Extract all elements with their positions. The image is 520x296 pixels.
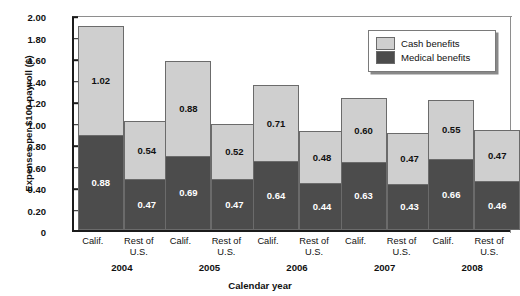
- x-group-label: 2004: [76, 262, 168, 273]
- bar-segment-medical: 0.46: [475, 181, 519, 229]
- bar-segment-medical: 0.44: [300, 183, 344, 229]
- y-tick-label: 0.60: [0, 162, 53, 173]
- y-tick-label: 1.80: [0, 33, 53, 44]
- stacked-bar: 0.550.66: [428, 100, 474, 230]
- y-tick-mark: [72, 124, 78, 126]
- bar-value-label: 0.71: [267, 119, 286, 129]
- bar-value-label: 0.47: [138, 200, 157, 210]
- bar-segment-medical: 0.43: [388, 184, 432, 229]
- legend-item-medical: Medical benefits: [376, 51, 488, 64]
- y-tick-label: 0: [0, 227, 53, 238]
- bar-segment-cash: 0.52: [212, 125, 256, 180]
- y-tick-label: 0.40: [0, 184, 53, 195]
- x-axis-title: Calendar year: [0, 280, 520, 291]
- bar-value-label: 0.64: [267, 191, 286, 201]
- bar-segment-cash: 1.02: [79, 27, 123, 136]
- y-tick-label: 1.20: [0, 98, 53, 109]
- x-sub-label: Calif.: [333, 236, 379, 247]
- bar-segment-medical: 0.69: [166, 156, 210, 229]
- bar-segment-cash: 0.55: [429, 101, 473, 159]
- stacked-bar: 0.480.44: [299, 131, 345, 230]
- bar-value-label: 0.55: [442, 125, 461, 135]
- stacked-bar: 0.540.47: [124, 121, 170, 230]
- bar-segment-medical: 0.88: [79, 135, 123, 229]
- bar-segment-cash: 0.71: [254, 86, 298, 161]
- y-tick-label: 1.00: [0, 119, 53, 130]
- bar-value-label: 1.02: [92, 76, 111, 86]
- y-tick-mark: [72, 145, 78, 147]
- y-tick-label: 1.60: [0, 55, 53, 66]
- y-tick-mark: [72, 102, 78, 104]
- bar-value-label: 0.63: [354, 191, 373, 201]
- x-group-label: 2007: [339, 262, 431, 273]
- x-group-label: 2005: [163, 262, 255, 273]
- x-sub-label: Rest of U.S.: [291, 236, 337, 257]
- legend-label-cash: Cash benefits: [401, 38, 460, 49]
- x-sub-label: Rest of U.S.: [379, 236, 425, 257]
- bar-value-label: 0.66: [442, 190, 461, 200]
- x-sub-label: Calif.: [70, 236, 116, 247]
- y-tick-mark: [72, 81, 78, 83]
- bar-segment-medical: 0.63: [342, 162, 386, 229]
- bar-segment-cash: 0.47: [388, 134, 432, 183]
- y-tick-label: 1.40: [0, 76, 53, 87]
- bar-segment-cash: 0.60: [342, 99, 386, 163]
- bar-segment-medical: 0.64: [254, 161, 298, 229]
- stacked-bar-chart: Expenses per $100 payroll ($) 1.020.880.…: [0, 0, 520, 296]
- x-sub-label: Calif.: [420, 236, 466, 247]
- x-sub-label: Rest of U.S.: [116, 236, 162, 257]
- stacked-bar: 0.520.47: [211, 124, 257, 230]
- bar-value-label: 0.88: [92, 178, 111, 188]
- y-tick-mark: [72, 188, 78, 190]
- stacked-bar: 0.470.46: [474, 130, 520, 230]
- bar-value-label: 0.69: [179, 188, 198, 198]
- y-tick-label: 0.80: [0, 141, 53, 152]
- bar-segment-medical: 0.66: [429, 159, 473, 229]
- y-tick-mark: [72, 16, 78, 18]
- chart-legend: Cash benefits Medical benefits: [368, 30, 496, 72]
- x-group-label: 2008: [426, 262, 518, 273]
- y-tick-label: 0.20: [0, 205, 53, 216]
- bar-value-label: 0.60: [354, 126, 373, 136]
- bar-segment-medical: 0.47: [212, 179, 256, 229]
- cash-swatch-icon: [376, 37, 395, 50]
- legend-item-cash: Cash benefits: [376, 37, 488, 50]
- bar-value-label: 0.47: [225, 200, 244, 210]
- bar-segment-cash: 0.88: [166, 62, 210, 155]
- stacked-bar: 0.880.69: [165, 61, 211, 230]
- x-group-label: 2006: [251, 262, 343, 273]
- y-tick-mark: [72, 167, 78, 169]
- stacked-bar: 1.020.88: [78, 26, 124, 230]
- y-tick-mark: [72, 38, 78, 40]
- x-sub-label: Calif.: [157, 236, 203, 247]
- stacked-bar: 0.470.43: [387, 133, 433, 230]
- legend-label-medical: Medical benefits: [401, 52, 470, 63]
- stacked-bar: 0.710.64: [253, 85, 299, 230]
- y-tick-mark: [72, 210, 78, 212]
- bar-value-label: 0.52: [225, 147, 244, 157]
- bar-value-label: 0.43: [400, 202, 419, 212]
- x-sub-label: Rest of U.S.: [203, 236, 249, 257]
- bar-value-label: 0.44: [313, 202, 332, 212]
- bar-value-label: 0.46: [488, 201, 507, 211]
- bar-value-label: 0.47: [400, 154, 419, 164]
- stacked-bar: 0.600.63: [341, 98, 387, 230]
- bar-value-label: 0.47: [488, 151, 507, 161]
- y-tick-label: 2.00: [0, 12, 53, 23]
- bar-value-label: 0.48: [313, 153, 332, 163]
- bar-value-label: 0.88: [179, 104, 198, 114]
- y-tick-mark: [72, 59, 78, 61]
- bar-segment-cash: 0.54: [125, 122, 169, 179]
- bar-segment-cash: 0.48: [300, 132, 344, 183]
- bar-segment-medical: 0.47: [125, 179, 169, 229]
- bar-value-label: 0.54: [138, 146, 157, 156]
- x-sub-label: Rest of U.S.: [466, 236, 512, 257]
- medical-swatch-icon: [376, 51, 395, 64]
- x-sub-label: Calif.: [245, 236, 291, 247]
- bar-segment-cash: 0.47: [475, 131, 519, 181]
